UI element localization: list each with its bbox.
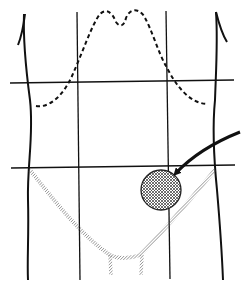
grid-horizontal-upper bbox=[10, 80, 234, 83]
grid-vertical-right bbox=[166, 11, 170, 279]
highlighted-region-circle bbox=[141, 170, 181, 210]
rib-cage-dashed-outline bbox=[36, 10, 208, 106]
pointer-arrow-icon bbox=[176, 132, 240, 173]
grid-horizontal-lower bbox=[11, 165, 235, 168]
grid-vertical-left bbox=[77, 12, 80, 280]
body-outline-left bbox=[18, 14, 31, 280]
region-grid bbox=[10, 11, 235, 280]
abdomen-diagram: abdomen divided into nine regions bbox=[0, 0, 241, 281]
body-outline-right bbox=[214, 12, 227, 280]
pelvic-hatched-outline bbox=[30, 170, 215, 275]
